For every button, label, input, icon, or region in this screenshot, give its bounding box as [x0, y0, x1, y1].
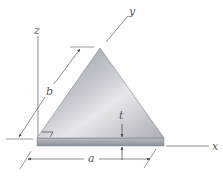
a-extension-right — [144, 149, 156, 168]
a-dimension-label: a — [88, 152, 95, 165]
x-axis-label: x — [212, 140, 219, 153]
b-dimension-line-upper — [54, 49, 80, 84]
triangular-plate — [37, 48, 164, 138]
y-axis — [106, 16, 128, 42]
b-dimension-line-lower — [19, 97, 45, 137]
triangular-plate-diagram: z y x b a t — [0, 0, 223, 176]
a-extension-left — [20, 151, 31, 169]
z-axis-label: z — [33, 24, 40, 37]
y-axis-label: y — [128, 5, 136, 18]
plate-edge — [37, 138, 164, 146]
b-dimension-label: b — [46, 85, 53, 98]
t-dimension-label: t — [119, 109, 124, 122]
